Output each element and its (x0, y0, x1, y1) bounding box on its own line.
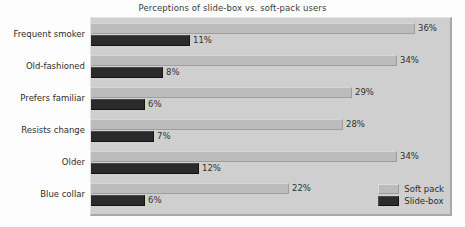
bar-chart-figure: Perceptions of slide-box vs. soft-pack u… (0, 0, 465, 227)
category-axis-labels: Frequent smokerOld-fashionedPrefers fami… (0, 17, 88, 216)
bar-value-label: 34% (400, 151, 419, 162)
bar-value-label: 7% (157, 131, 171, 142)
category-label: Frequent smoker (0, 29, 85, 39)
bar-value-label: 34% (400, 55, 419, 66)
bar-soft[interactable] (91, 119, 343, 130)
bar-row-slide: 6% (91, 195, 162, 206)
category-label: Resists change (0, 125, 85, 135)
bar-value-label: 12% (202, 163, 221, 174)
bar-value-label: 6% (148, 195, 162, 206)
legend-entry[interactable]: Slide-box (378, 196, 444, 206)
legend-label: Soft pack (404, 184, 444, 194)
bar-row-soft: 28% (91, 119, 365, 130)
bar-row-soft: 34% (91, 55, 419, 66)
bar-slide[interactable] (91, 131, 154, 142)
category-label: Blue collar (0, 189, 85, 199)
bar-row-soft: 29% (91, 87, 374, 98)
bar-row-slide: 12% (91, 163, 221, 174)
bar-slide[interactable] (91, 195, 145, 206)
bar-slide[interactable] (91, 163, 199, 174)
bar-value-label: 22% (292, 183, 311, 194)
category-label: Older (0, 157, 85, 167)
bar-row-soft: 22% (91, 183, 311, 194)
bar-row-soft: 34% (91, 151, 419, 162)
bar-row-slide: 6% (91, 99, 162, 110)
plot-area: 36%11%34%8%29%6%28%7%34%12%22%6% Soft pa… (90, 17, 452, 216)
bar-soft[interactable] (91, 23, 415, 34)
bar-slide[interactable] (91, 35, 190, 46)
bar-value-label: 28% (346, 119, 365, 130)
chart-title: Perceptions of slide-box vs. soft-pack u… (0, 3, 465, 13)
bar-soft[interactable] (91, 183, 289, 194)
category-label: Prefers familiar (0, 93, 85, 103)
bar-row-slide: 11% (91, 35, 212, 46)
bar-row-slide: 7% (91, 131, 171, 142)
bar-value-label: 6% (148, 99, 162, 110)
bar-value-label: 29% (355, 87, 374, 98)
bar-value-label: 11% (193, 35, 212, 46)
bar-value-label: 8% (166, 67, 180, 78)
legend-entry[interactable]: Soft pack (378, 184, 444, 194)
chart-legend: Soft packSlide-box (378, 184, 444, 206)
bar-slide[interactable] (91, 67, 163, 78)
bar-value-label: 36% (418, 23, 437, 34)
legend-label: Slide-box (404, 196, 443, 206)
bar-slide[interactable] (91, 99, 145, 110)
bar-row-slide: 8% (91, 67, 180, 78)
bar-soft[interactable] (91, 151, 397, 162)
bar-soft[interactable] (91, 87, 352, 98)
legend-swatch-slide (378, 196, 399, 206)
bar-soft[interactable] (91, 55, 397, 66)
bar-row-soft: 36% (91, 23, 437, 34)
legend-swatch-soft (378, 184, 399, 194)
category-label: Old-fashioned (0, 61, 85, 71)
